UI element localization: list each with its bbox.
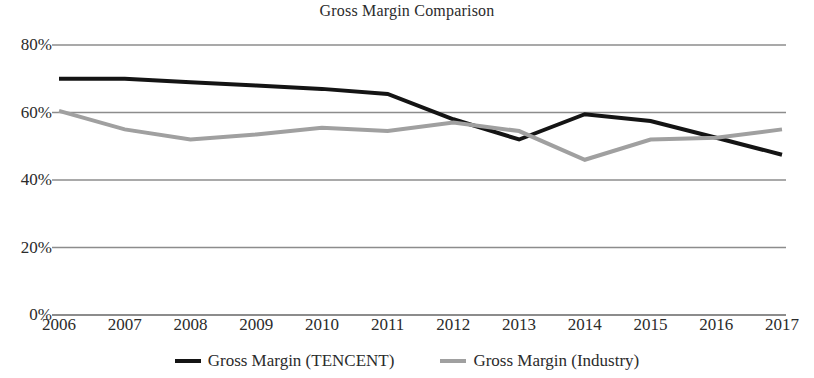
- x-tick-label: 2009: [224, 316, 288, 333]
- legend-item-industry[interactable]: Gross Margin (Industry): [440, 352, 639, 369]
- series-line-tencent: [59, 79, 782, 155]
- x-tick-label: 2013: [487, 316, 551, 333]
- y-tick-label: 60%: [0, 104, 52, 121]
- legend-line-swatch-icon: [440, 359, 466, 363]
- y-tick-label: 20%: [0, 239, 52, 256]
- gridlines: [52, 45, 786, 315]
- x-tick-label: 2011: [356, 316, 420, 333]
- series-line-industry: [59, 111, 782, 160]
- x-tick-label: 2010: [290, 316, 354, 333]
- chart-legend: Gross Margin (TENCENT)Gross Margin (Indu…: [0, 352, 814, 369]
- gross-margin-chart: Gross Margin Comparison 0%20%40%60%80% 2…: [0, 0, 814, 378]
- x-tick-label: 2008: [158, 316, 222, 333]
- legend-label: Gross Margin (TENCENT): [208, 352, 395, 369]
- x-tick-label: 2006: [27, 316, 91, 333]
- x-tick-label: 2014: [553, 316, 617, 333]
- x-tick-label: 2015: [619, 316, 683, 333]
- x-tick-label: 2016: [684, 316, 748, 333]
- legend-label: Gross Margin (Industry): [473, 352, 639, 369]
- series-lines: [59, 79, 782, 160]
- x-tick-label: 2007: [93, 316, 157, 333]
- legend-item-tencent[interactable]: Gross Margin (TENCENT): [175, 352, 395, 369]
- y-tick-label: 40%: [0, 171, 52, 188]
- y-tick-label: 80%: [0, 36, 52, 53]
- x-tick-label: 2017: [750, 316, 814, 333]
- legend-line-swatch-icon: [175, 359, 201, 363]
- x-tick-label: 2012: [421, 316, 485, 333]
